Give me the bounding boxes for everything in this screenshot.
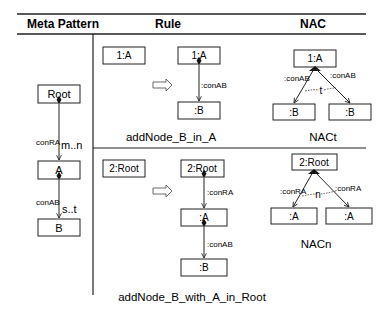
- rule2-arrow-icon: [153, 185, 172, 197]
- rule1-rhs-edge-label: :conAB: [201, 81, 227, 90]
- diagram-canvas: Meta Pattern Rule NAC Root conRA m..n A …: [0, 0, 392, 317]
- nac1-node-a-label: 1:A: [307, 53, 322, 64]
- nac1-node-b2-label: :B: [345, 107, 355, 118]
- meta-node-b-label: B: [55, 222, 62, 234]
- rule2-caption: addNode_B_with_A_in_Root: [118, 291, 266, 303]
- nac2-node-root-label: 2:Root: [299, 157, 329, 168]
- header-meta-pattern: Meta Pattern: [27, 17, 99, 31]
- rule1-caption: addNode_B_in_A: [126, 131, 216, 143]
- nac1-count-label: t: [320, 85, 323, 96]
- nac2-node-a1-label: :A: [289, 211, 299, 222]
- meta-edge-root-a-label: conRA: [36, 138, 61, 147]
- nac2-edge-right-label: :conRA: [335, 184, 362, 193]
- nac2-count-label: n: [315, 189, 321, 200]
- meta-edge-a-b-label: conAB: [36, 198, 60, 207]
- rule2-lhs-node-root-label: 2:Root: [109, 163, 139, 174]
- rule1-arrow-icon: [153, 79, 172, 91]
- rule2-rhs-node-b-label: :B: [199, 262, 209, 273]
- rule-add-node-b-with-a-in-root: 2:Root 2:Root :conRA :A :conAB :B addNod…: [103, 160, 267, 303]
- rule2-rhs-edge-a-b-label: :conAB: [207, 240, 233, 249]
- meta-pattern: Root conRA m..n A conAB s..t B: [36, 85, 82, 236]
- nac1-edge-left-label: :conAB: [284, 74, 310, 83]
- rule2-rhs-edge-root-a-label: :conRA: [207, 188, 234, 197]
- meta-node-root-label: Root: [47, 88, 70, 100]
- nac1-edge-right-label: :conAB: [330, 71, 356, 80]
- nac2-node-a2-label: :A: [344, 211, 354, 222]
- header-nac: NAC: [300, 17, 326, 31]
- meta-edge-root-a-multiplicity: m..n: [61, 139, 82, 151]
- nac1-node-b1-label: :B: [289, 107, 299, 118]
- meta-node-a-label: A: [55, 164, 63, 176]
- rule-add-node-b-in-a: 1:A 1:A :conAB :B addNode_B_in_A: [103, 47, 227, 143]
- rule1-lhs-node-a-label: 1:A: [116, 50, 131, 61]
- rule1-rhs-node-b-label: :B: [194, 105, 204, 116]
- nac1-caption: NACt: [309, 131, 337, 143]
- meta-edge-a-b-multiplicity: s..t: [62, 203, 77, 215]
- nac-t: 1:A :conAB :conAB t :B :B NACt: [273, 50, 371, 143]
- nac2-caption: NACn: [301, 238, 332, 250]
- rule2-rhs-node-a-label: :A: [199, 212, 209, 223]
- header-rule: Rule: [155, 17, 181, 31]
- nac2-edge-left-label: :conRA: [280, 187, 307, 196]
- rule1-rhs-node-a-label: 1:A: [191, 50, 206, 61]
- rule2-rhs-node-root-label: 2:Root: [187, 163, 217, 174]
- nac-n: 2:Root :conRA :conRA n :A :A NACn: [271, 154, 372, 250]
